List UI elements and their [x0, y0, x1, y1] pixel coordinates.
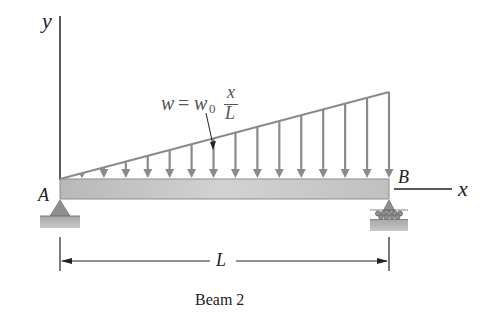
- dimension-label: L: [216, 250, 226, 271]
- load-arrow-icon: [143, 169, 152, 178]
- load-arrow-icon: [385, 169, 394, 178]
- load-arrow-icon: [209, 169, 218, 178]
- formula-pointer: [206, 113, 216, 150]
- load-arrow-icon: [165, 169, 174, 178]
- point-a-label: A: [38, 185, 49, 206]
- load-arrow-icon: [231, 169, 240, 178]
- point-b-label: B: [398, 167, 409, 188]
- formula-equals: =: [178, 92, 189, 115]
- load-arrow-icon: [319, 169, 328, 178]
- load-arrow-icon: [297, 169, 306, 178]
- formula-numerator: x: [227, 82, 235, 103]
- formula-lhs: w: [161, 92, 174, 115]
- formula-denominator: L: [225, 103, 235, 124]
- load-arrow-icon: [275, 169, 284, 178]
- load-arrow-icon: [253, 169, 262, 178]
- load-arrow-icon: [99, 169, 108, 178]
- formula-subscript: 0: [209, 101, 216, 117]
- roller-support-b: [370, 200, 408, 231]
- y-axis-label: y: [42, 8, 52, 34]
- load-arrow-icon: [121, 169, 130, 178]
- x-axis-label: x: [458, 176, 468, 202]
- load-arrow-icon: [187, 169, 196, 178]
- load-arrow-icon: [341, 169, 350, 178]
- formula-coef: w: [194, 92, 207, 115]
- figure-caption: Beam 2: [195, 291, 244, 309]
- beam-diagram: y x A B w = w 0 x L L Beam 2: [0, 0, 491, 331]
- load-arrow-icon: [79, 173, 85, 178]
- beam: [60, 179, 389, 199]
- load-arrow-icon: [363, 169, 372, 178]
